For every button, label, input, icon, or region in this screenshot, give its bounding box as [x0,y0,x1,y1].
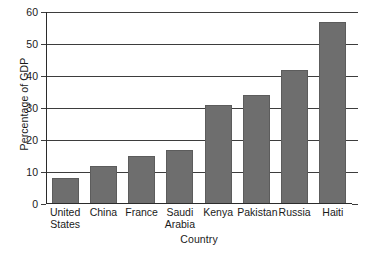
x-axis-tick-label: United States [46,207,84,230]
bar [319,22,346,204]
bar-chart: Percentage of GDP 0102030405060 United S… [0,0,370,258]
x-axis-tick-label: Haiti [314,207,352,219]
y-axis-tick-label: 60 [26,6,38,18]
bar [52,178,79,204]
y-axis-tick-right [352,12,358,13]
y-axis-tick-label: 50 [26,38,38,50]
bar [281,70,308,204]
x-axis-tick-label: Saudi Arabia [161,207,199,230]
x-axis-tick-label: Russia [276,207,314,219]
x-axis-tick-label: China [84,207,122,219]
y-axis-tick-label: 20 [26,134,38,146]
y-axis-tick-right [352,140,358,141]
y-axis-tick-right [352,44,358,45]
bar [243,95,270,204]
y-axis-tick [41,204,46,205]
x-axis-line [46,203,352,204]
bar [90,166,117,204]
plot-area: 0102030405060 [46,12,352,204]
y-axis-line [46,12,47,204]
bar [128,156,155,204]
bar [205,105,232,204]
bar [166,150,193,204]
y-axis-tick-right [352,108,358,109]
x-axis-tick-label: Kenya [199,207,237,219]
y-axis-tick-label: 40 [26,70,38,82]
x-axis-title: Country [46,233,352,245]
y-axis-tick-label: 30 [26,102,38,114]
y-axis-tick-right [352,204,358,205]
y-axis-tick-right [352,172,358,173]
x-axis-tick-label: Pakistan [237,207,275,219]
y-axis-tick-label: 0 [32,198,38,210]
x-axis-tick-labels: United StatesChinaFranceSaudi ArabiaKeny… [46,207,352,233]
y-axis-tick-right [352,76,358,77]
bar-series [46,12,352,204]
x-axis-tick-label: France [123,207,161,219]
y-axis-tick-label: 10 [26,166,38,178]
